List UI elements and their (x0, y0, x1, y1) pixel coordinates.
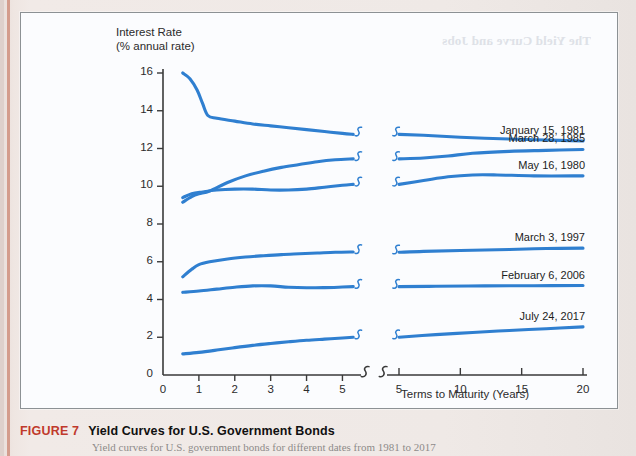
series-break-mark (355, 152, 362, 161)
series-line-left (183, 159, 353, 202)
chart-axes (157, 69, 587, 381)
series-line-left (183, 252, 353, 277)
figure-number: FIGURE 7 (20, 424, 79, 438)
y-tick-label: 0 (121, 367, 153, 379)
x-tick-label-right: 15 (510, 383, 534, 395)
series-line-left (183, 184, 353, 197)
series-label: February 6, 2006 (425, 269, 585, 281)
y-tick-label: 6 (121, 254, 153, 266)
series-break-mark (355, 280, 362, 289)
series-line-right (399, 248, 583, 252)
series-break-mark (355, 127, 362, 136)
chart-plot-area (21, 13, 617, 408)
x-tick-label-left: 4 (295, 383, 319, 395)
x-tick-label-left: 1 (187, 383, 211, 395)
y-tick-label: 12 (121, 141, 153, 153)
series-line-left (183, 73, 353, 134)
series-line-left (183, 286, 353, 293)
series-line-right (399, 149, 583, 158)
series-break-mark (355, 330, 362, 339)
series-line-right (399, 175, 583, 185)
y-tick-label: 4 (121, 292, 153, 304)
figure-caption: FIGURE 7 Yield Curves for U.S. Governmen… (20, 424, 620, 453)
y-tick-label: 8 (121, 216, 153, 228)
y-tick-label: 16 (121, 65, 153, 77)
y-tick-label: 10 (121, 178, 153, 190)
x-tick-label-left: 2 (223, 383, 247, 395)
series-break-mark (355, 177, 362, 186)
figure-title: Yield Curves for U.S. Government Bonds (88, 424, 334, 438)
x-tick-label-right: 20 (571, 383, 595, 395)
series-line-right (399, 327, 583, 337)
x-tick-label-right: 5 (387, 383, 411, 395)
series-line-left (183, 337, 353, 354)
page-spine-accent-rule (7, 0, 10, 456)
x-tick-label-left: 0 (151, 383, 175, 395)
figure-subtitle: Yield curves for U.S. government bonds f… (92, 441, 620, 453)
y-tick-label: 14 (121, 103, 153, 115)
x-tick-label-right: 10 (448, 383, 472, 395)
axis-break-marks (355, 127, 399, 377)
series-label: March 3, 1997 (425, 231, 585, 243)
series-break-mark (355, 245, 362, 254)
series-label: July 24, 2017 (425, 310, 585, 322)
x-tick-label-left: 5 (330, 383, 354, 395)
series-label: May 16, 1980 (425, 159, 585, 171)
x-tick-label-left: 3 (259, 383, 283, 395)
y-tick-label: 2 (121, 329, 153, 341)
series-label: March 28, 1985 (425, 132, 585, 144)
figure-frame: The Yield Curve and Jobs Interest Rate (… (20, 12, 618, 409)
page-spine-edge (0, 0, 4, 456)
series-line-right (399, 286, 583, 287)
